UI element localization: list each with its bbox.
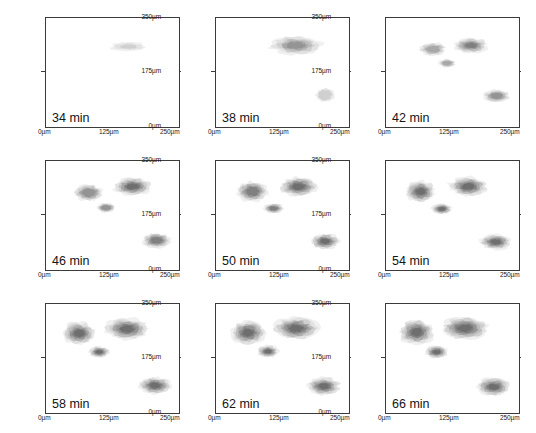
x-axis-tick-label: 0µm xyxy=(208,271,220,278)
time-label: 54 min xyxy=(392,255,430,268)
x-axis-tick-label: 125µm xyxy=(99,271,119,278)
plot-area: 54 min xyxy=(385,160,520,271)
time-label: 50 min xyxy=(222,255,260,268)
time-label: 42 min xyxy=(392,112,430,125)
time-label: 34 min xyxy=(52,112,90,125)
x-axis-tick-label: 0µm xyxy=(38,271,50,278)
y-axis-tick-label: 0µm xyxy=(319,122,331,129)
x-axis-tick-label: 125µm xyxy=(269,128,289,135)
x-axis-tick-label: 0µm xyxy=(38,128,50,135)
contour-panel-figure: 0µm175µm350µm0µm125µm250µm34 min0µm175µm… xyxy=(0,0,536,433)
x-axis-tick-label: 125µm xyxy=(99,414,119,421)
plot-area: 66 min xyxy=(385,303,520,414)
y-axis-tick-label: 0µm xyxy=(319,265,331,272)
y-axis-tick-label: 175µm xyxy=(141,353,161,360)
y-axis-tick-label: 350µm xyxy=(141,156,161,163)
x-axis-tick-label: 125µm xyxy=(99,128,119,135)
x-axis-tick-label: 0µm xyxy=(208,414,220,421)
x-axis-tick-label: 250µm xyxy=(500,414,520,421)
x-axis-tick-label: 125µm xyxy=(439,271,459,278)
x-axis-tick-label: 250µm xyxy=(500,271,520,278)
x-axis-tick-label: 125µm xyxy=(439,414,459,421)
y-axis-tick-label: 0µm xyxy=(319,408,331,415)
y-axis-tick-label: 0µm xyxy=(149,122,161,129)
x-axis-tick-label: 125µm xyxy=(439,128,459,135)
y-axis-tick-label: 175µm xyxy=(311,353,331,360)
y-axis-tick-label: 0µm xyxy=(149,408,161,415)
time-label: 66 min xyxy=(392,398,430,411)
x-axis-tick-label: 250µm xyxy=(500,128,520,135)
contour-panel-42min: 0µm175µm350µm0µm125µm250µm42 min xyxy=(340,0,510,140)
y-axis-tick-label: 350µm xyxy=(311,13,331,20)
plot-area: 42 min xyxy=(385,17,520,128)
y-axis-tick-label: 350µm xyxy=(311,299,331,306)
x-axis-tick-label: 125µm xyxy=(269,414,289,421)
contour-panel-54min: 0µm175µm350µm0µm125µm250µm54 min xyxy=(340,143,510,283)
y-axis-tick-label: 350µm xyxy=(141,13,161,20)
time-label: 62 min xyxy=(222,398,260,411)
y-axis-tick-label: 175µm xyxy=(141,67,161,74)
x-axis-tick-label: 0µm xyxy=(378,414,390,421)
y-axis-tick-label: 175µm xyxy=(141,210,161,217)
time-label: 38 min xyxy=(222,112,260,125)
y-axis-tick-label: 175µm xyxy=(311,210,331,217)
time-label: 46 min xyxy=(52,255,90,268)
y-axis-tick-label: 350µm xyxy=(141,299,161,306)
x-axis-tick-label: 0µm xyxy=(208,128,220,135)
y-axis-tick-label: 350µm xyxy=(311,156,331,163)
y-axis-tick-label: 0µm xyxy=(149,265,161,272)
x-axis-tick-label: 125µm xyxy=(269,271,289,278)
time-label: 58 min xyxy=(52,398,90,411)
x-axis-tick-label: 0µm xyxy=(38,414,50,421)
x-axis-tick-label: 0µm xyxy=(378,128,390,135)
y-axis-tick-label: 175µm xyxy=(311,67,331,74)
contour-panel-66min: 0µm175µm350µm0µm125µm250µm66 min xyxy=(340,286,510,426)
x-axis-tick-label: 0µm xyxy=(378,271,390,278)
